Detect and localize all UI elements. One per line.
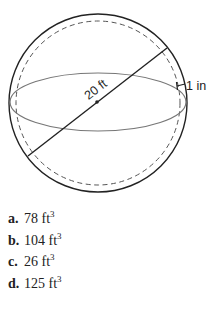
choice-letter: b. <box>8 230 24 252</box>
choice-d[interactable]: d.125 ft3 <box>8 273 62 295</box>
choice-letter: d. <box>8 273 24 295</box>
choice-exponent: 3 <box>50 252 55 262</box>
choice-exponent: 3 <box>50 209 55 219</box>
choice-value: 78 ft <box>24 211 50 226</box>
choice-a[interactable]: a.78 ft3 <box>8 208 62 230</box>
choice-b[interactable]: b.104 ft3 <box>8 230 62 252</box>
diameter-label: 20 ft <box>82 76 110 102</box>
center-point <box>95 100 99 104</box>
thickness-label: 1 in <box>186 79 206 93</box>
choice-c[interactable]: c.26 ft3 <box>8 251 62 273</box>
choice-value: 104 ft <box>24 233 57 248</box>
choice-value: 26 ft <box>24 254 50 269</box>
choice-letter: c. <box>8 251 24 273</box>
answer-choices: a.78 ft3 b.104 ft3 c.26 ft3 d.125 ft3 <box>8 208 62 294</box>
choice-exponent: 3 <box>57 274 62 284</box>
choice-value: 125 ft <box>24 276 57 291</box>
choice-letter: a. <box>8 208 24 230</box>
sphere-diagram: 20 ft 1 in <box>0 0 218 200</box>
choice-exponent: 3 <box>57 231 62 241</box>
